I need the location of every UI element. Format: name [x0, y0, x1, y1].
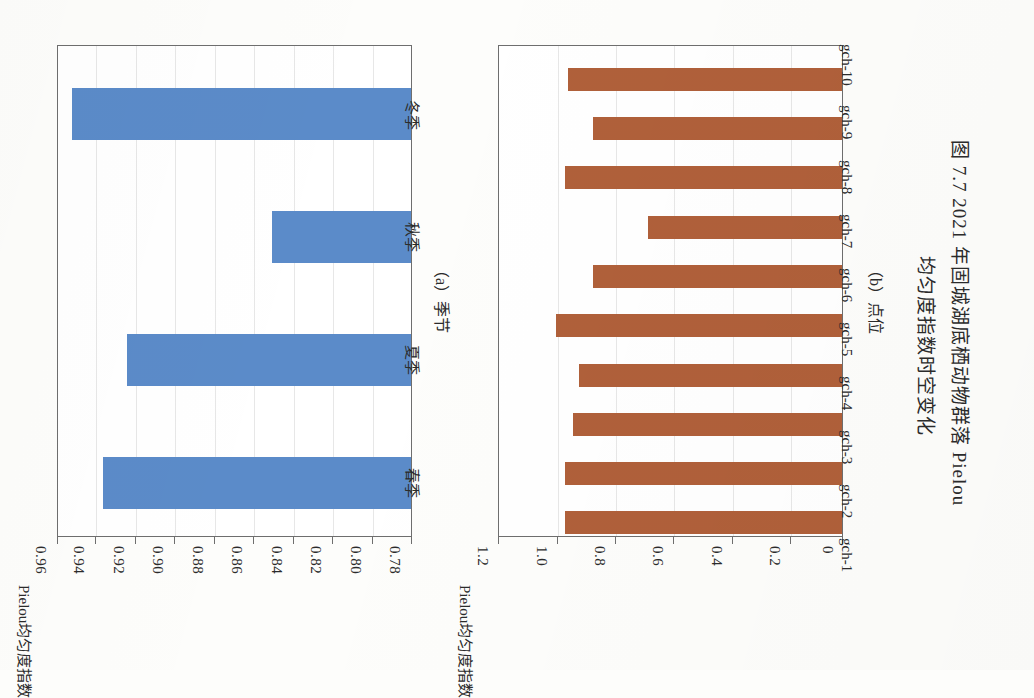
bar-gch-4	[579, 364, 842, 387]
axis-tick	[293, 537, 294, 544]
bar-gch-1	[565, 511, 842, 534]
axis-tick	[253, 537, 254, 544]
category-label-gch-1: gch-1	[838, 538, 855, 572]
category-label-gch-10: gch-10	[838, 44, 855, 86]
panel-b-subcaption: （b）点位	[865, 262, 889, 334]
axis-tick-label: 0.2	[766, 546, 783, 566]
category-label-gch-4: gch-4	[838, 376, 855, 410]
axis-tick	[135, 537, 136, 544]
axis-tick	[498, 537, 499, 544]
gridline	[558, 46, 559, 536]
axis-tick-label: 0.84	[268, 546, 285, 574]
axis-tick	[174, 537, 175, 544]
bar-xiaji	[127, 334, 411, 386]
axis-tick	[372, 537, 373, 544]
bar-gch-9	[593, 117, 842, 140]
panel-b-sites: 1.2 1.0 0.8 0.6 0.4 0.2 0 Pielou均匀度指数 gc…	[470, 0, 900, 670]
panel-b-plot-area	[498, 45, 843, 537]
figure-caption-line2: 均匀度指数时空变化	[914, 256, 941, 436]
category-label-gch-5: gch-5	[838, 322, 855, 356]
axis-tick-label: 0.94	[70, 546, 87, 574]
axis-tick-label: 0	[819, 546, 836, 554]
category-label-chunji: 春季	[403, 468, 424, 498]
axis-tick	[95, 537, 96, 544]
panel-a-seasons: 0.96 0.94 0.92 0.90 0.88 0.86 0.84 0.82 …	[0, 0, 470, 670]
axis-tick-label: 0.8	[591, 546, 608, 566]
axis-tick-label: 0.78	[386, 546, 403, 574]
axis-tick	[615, 537, 616, 544]
figure-caption-line1: 图 7.7 2021 年固城湖底栖动物群落 Pielou	[948, 140, 975, 506]
axis-tick-label: 0.4	[708, 546, 725, 566]
bar-dongji	[72, 88, 411, 140]
axis-tick	[411, 537, 412, 544]
category-label-xiaji: 夏季	[403, 345, 424, 375]
bar-gch-2	[565, 462, 842, 485]
axis-tick-label: 0.86	[228, 546, 245, 574]
category-label-gch-6: gch-6	[838, 268, 855, 302]
category-label-gch-7: gch-7	[838, 214, 855, 248]
bar-gch-5	[556, 314, 842, 337]
bar-gch-8	[565, 166, 842, 189]
axis-tick	[57, 537, 58, 544]
axis-tick-label: 0.6	[649, 546, 666, 566]
axis-tick	[557, 537, 558, 544]
axis-tick	[332, 537, 333, 544]
panel-a-plot-area	[57, 45, 412, 537]
category-label-gch-2: gch-2	[838, 484, 855, 518]
category-label-gch-9: gch-9	[838, 105, 855, 139]
bar-gch-7	[648, 216, 842, 239]
bar-chunji	[103, 457, 411, 509]
axis-tick-label: 0.92	[110, 546, 127, 574]
category-label-gch-8: gch-8	[838, 160, 855, 194]
bar-gch-3	[573, 413, 842, 436]
bar-gch-10	[568, 68, 842, 91]
panel-a-axis-title: Pielou均匀度指数	[15, 585, 36, 698]
axis-tick	[732, 537, 733, 544]
axis-tick-label: 0.96	[32, 546, 49, 574]
axis-tick-label: 0.82	[307, 546, 324, 574]
axis-tick	[214, 537, 215, 544]
panel-b-axis-title: Pielou均匀度指数	[456, 585, 477, 698]
axis-tick-label: 0.80	[347, 546, 364, 574]
panel-a-subcaption: （a）季节	[431, 262, 455, 333]
axis-tick	[673, 537, 674, 544]
axis-tick-label: 0.88	[189, 546, 206, 574]
category-label-qiuji: 秋季	[403, 222, 424, 252]
category-label-dongji: 冬季	[403, 100, 424, 130]
category-label-gch-3: gch-3	[838, 430, 855, 464]
bar-gch-6	[593, 265, 842, 288]
axis-tick-label: 1.0	[533, 546, 550, 566]
axis-tick-label: 0.90	[149, 546, 166, 574]
bar-qiuji	[272, 211, 411, 263]
axis-tick	[790, 537, 791, 544]
axis-tick-label: 1.2	[474, 546, 491, 566]
